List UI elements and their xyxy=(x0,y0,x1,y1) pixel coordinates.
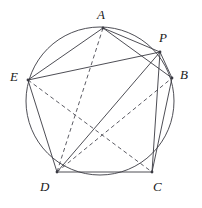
vertex-label-d: D xyxy=(40,180,49,193)
vertex-dot-d xyxy=(56,171,59,174)
segment-e-c-dashed xyxy=(28,80,152,172)
vertex-label-c: C xyxy=(153,180,162,193)
vertex-dot-b xyxy=(171,77,174,80)
vertex-label-a: A xyxy=(97,8,105,21)
figure-canvas xyxy=(0,0,202,208)
segment-a-d-dashed xyxy=(57,28,103,172)
segment-p-d xyxy=(57,52,160,172)
circumcircle xyxy=(26,27,174,175)
vertex-dot-p xyxy=(159,51,162,54)
vertex-label-b: B xyxy=(180,68,188,81)
geometry-figure: A P B C D E xyxy=(0,0,202,208)
vertex-dot-a xyxy=(102,27,105,30)
segment-d-e xyxy=(28,80,57,172)
vertex-dot-c xyxy=(151,171,154,174)
vertex-label-p: P xyxy=(159,31,167,44)
vertex-label-e: E xyxy=(10,70,18,83)
vertex-dot-e xyxy=(27,79,30,82)
